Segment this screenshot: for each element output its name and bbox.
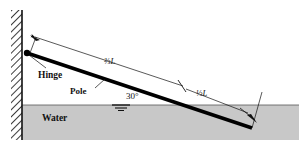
hinge-label: Hinge bbox=[38, 70, 62, 80]
water-label: Water bbox=[42, 113, 68, 123]
pole-label: Pole bbox=[70, 86, 87, 96]
physics-diagram: Hinge Pole 30° Water ⅔L ⅓L bbox=[0, 0, 299, 149]
wall bbox=[11, 10, 22, 140]
upper-segment-label: ⅔L bbox=[104, 56, 115, 66]
pole-leader bbox=[95, 79, 105, 88]
lower-segment-label: ⅓L bbox=[196, 88, 207, 98]
angle-label: 30° bbox=[126, 91, 139, 101]
